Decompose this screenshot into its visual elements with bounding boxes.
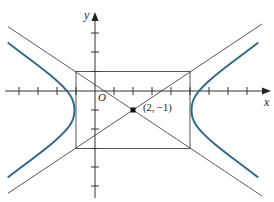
x-axis-arrow-icon: [262, 88, 271, 95]
hyperbola-right-branch: [192, 43, 259, 178]
center-point: [131, 108, 136, 113]
y-axis: [91, 12, 99, 198]
center-point-label: (2, −1): [143, 103, 172, 114]
hyperbola-left-branch: [8, 43, 75, 178]
hyperbola-diagram: [0, 0, 274, 202]
y-axis-arrow-icon: [92, 12, 99, 21]
y-axis-label: y: [84, 9, 89, 21]
origin-label: O: [98, 92, 106, 103]
x-axis: [5, 87, 271, 95]
x-axis-label: x: [264, 96, 269, 108]
